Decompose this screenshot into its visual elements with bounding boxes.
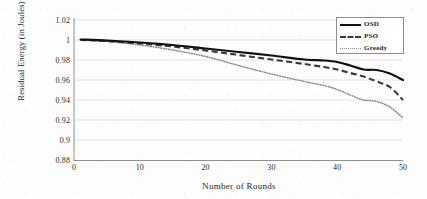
legend-label: OSD [364, 19, 379, 30]
legend-item-pso: PSO [337, 31, 403, 42]
legend-label: Greedy [364, 43, 387, 54]
chart-legend: OSD PSO Greedy [336, 17, 404, 54]
legend-item-osd: OSD [337, 19, 403, 30]
chart-figure: Residual Energy (in Joules) 0.88 0.9 0.9… [0, 0, 427, 199]
legend-swatch-solid-icon [340, 24, 361, 26]
legend-label: PSO [364, 31, 378, 42]
legend-swatch-dashed-icon [340, 36, 361, 38]
legend-item-greedy: Greedy [337, 43, 403, 54]
legend-swatch-dotted-icon [340, 48, 361, 49]
